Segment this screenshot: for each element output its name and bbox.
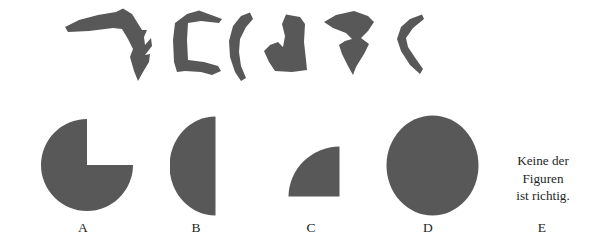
option-e-label: E: [517, 221, 567, 235]
puzzle-piece-sliver: [396, 14, 426, 76]
puzzle-piece-blob: [262, 14, 314, 76]
option-b-label: B: [171, 221, 221, 235]
option-b-figure: [170, 116, 216, 216]
option-a-label: A: [58, 221, 108, 235]
puzzle-pieces-row: [0, 0, 607, 98]
option-a-figure: [41, 113, 133, 216]
puzzle-piece-hook: [65, 8, 157, 84]
option-d-figure: [386, 115, 479, 216]
option-e-text-line-2: Figuren: [487, 170, 599, 188]
puzzle-piece-arrow: [323, 9, 377, 77]
option-e-text-line-3: ist richtig.: [487, 187, 599, 205]
puzzle-piece-crescent: [228, 12, 258, 82]
option-c-label: C: [286, 221, 336, 235]
option-c-figure: [288, 146, 340, 197]
test-item-stage: A B C: [0, 0, 607, 251]
puzzle-piece-bracket: [165, 10, 225, 82]
option-e-text: Keine der Figuren ist richtig.: [487, 152, 599, 205]
option-d-label: D: [403, 221, 453, 235]
option-e-text-line-1: Keine der: [487, 152, 599, 170]
